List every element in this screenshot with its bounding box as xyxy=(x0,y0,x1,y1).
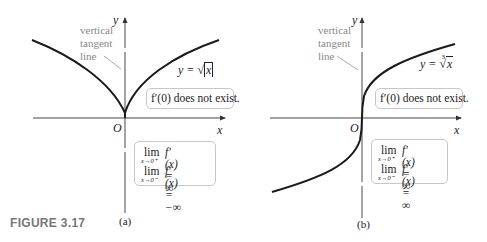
function-label-a: y = √x xyxy=(178,64,213,76)
tangent-label-b-1: vertical xyxy=(318,25,351,36)
origin-label-b: O xyxy=(350,122,359,134)
function-label-b: y = 3√x xyxy=(420,58,453,70)
tangent-label-a-3: line xyxy=(80,51,97,62)
function-prefix-a: y = xyxy=(178,63,197,77)
x-axis-label-b: x xyxy=(454,124,459,136)
limits-box-b: lim x→0⁺ f′(x) = ∞ lim x→0⁻ f′(x) = ∞ xyxy=(371,139,448,184)
tangent-label-a-1: vertical xyxy=(80,25,113,36)
note-a: f′(0) does not exist. xyxy=(151,93,240,105)
function-prefix-b: y = xyxy=(420,57,439,71)
y-axis-label-b: y xyxy=(352,14,357,26)
function-body-b: x xyxy=(446,56,453,71)
function-body-a: x xyxy=(204,62,213,77)
note-b: f′(0) does not exist. xyxy=(380,93,469,105)
tangent-label-b-3: line xyxy=(318,51,335,62)
caption-a: (a) xyxy=(119,216,131,227)
tangent-label-b-2: tangent xyxy=(318,38,350,49)
limits-box-a: lim x→0⁺ f′(x) = ∞ lim x→0⁻ f′(x) = −∞ xyxy=(134,141,216,186)
note-box-b: f′(0) does not exist. xyxy=(375,88,463,109)
note-box-a: f′(0) does not exist. xyxy=(146,88,234,109)
tangent-label-a-2: tangent xyxy=(80,38,112,49)
cube-root-icon: 3√ xyxy=(439,57,446,71)
panel-b-axes xyxy=(270,18,461,218)
y-axis-label-a: y xyxy=(113,14,118,26)
origin-label-a: O xyxy=(113,122,122,134)
figure-label: FIGURE 3.17 xyxy=(10,217,85,229)
x-axis-label-a: x xyxy=(217,124,222,136)
caption-b: (b) xyxy=(357,219,370,230)
